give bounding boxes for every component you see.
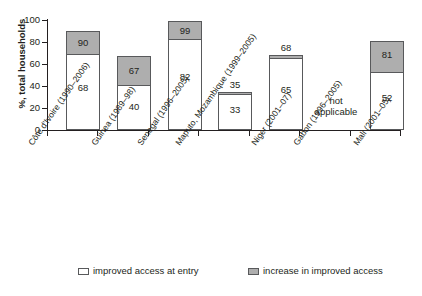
bar-base-label: 33	[219, 105, 251, 115]
bar-segment-increase: 67	[117, 56, 151, 86]
legend-label-increase: increase in improved access	[263, 266, 383, 276]
x-tick-mark-7	[400, 131, 401, 136]
y-tick-label-80: 80	[6, 37, 40, 47]
y-tick-label-40: 40	[6, 81, 40, 91]
stacked-bar-chart: %, total households 100 80 60 40 20 0 90…	[0, 0, 422, 296]
x-tick-mark-0	[47, 131, 48, 136]
legend-swatch-entry-icon	[78, 268, 89, 275]
y-tick-label-60: 60	[6, 59, 40, 69]
legend-item-improved-access-at-entry[interactable]: improved access at entry	[78, 266, 199, 276]
bar-segment-increase: 99	[168, 21, 202, 40]
legend-item-increase-in-improved-access[interactable]: increase in improved access	[248, 266, 383, 276]
bar-segment-increase: 90	[66, 31, 100, 55]
bar-maputo-mozambique[interactable]: 35 33	[218, 92, 252, 131]
legend-label-entry: improved access at entry	[93, 266, 199, 276]
bar-segment-increase: 81	[370, 41, 404, 73]
chart-legend: improved access at entry increase in imp…	[0, 262, 422, 282]
bar-total-label: 99	[169, 26, 201, 36]
legend-swatch-increase-icon	[248, 268, 259, 275]
x-tick-mark-4	[249, 131, 250, 136]
not-applicable-line-1: not	[303, 95, 369, 106]
bar-total-label: 90	[67, 38, 99, 48]
bar-segment-entry: 33	[218, 95, 252, 130]
x-tick-mark-3	[198, 131, 199, 136]
y-tick-label-100: 100	[6, 15, 40, 25]
bar-total-label: 68	[269, 43, 303, 53]
y-axis-tick-labels: 100 80 60 40 20 0	[0, 0, 40, 296]
bar-total-label: 81	[371, 50, 403, 60]
bar-total-label: 67	[118, 66, 150, 76]
x-tick-mark-6	[350, 131, 351, 136]
y-tick-label-20: 20	[6, 103, 40, 113]
